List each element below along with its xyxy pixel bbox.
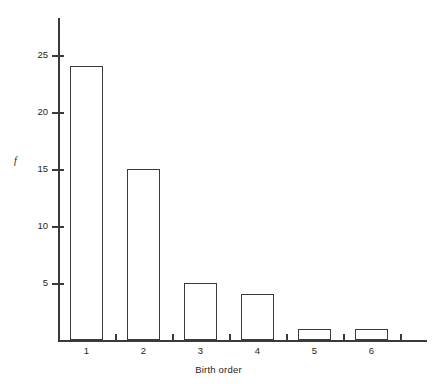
bar <box>298 329 331 340</box>
y-axis-tick-label: 25 <box>22 50 48 60</box>
bar <box>355 329 388 340</box>
bar <box>184 283 217 340</box>
x-axis-tick <box>286 334 288 341</box>
x-axis-tick <box>400 334 402 341</box>
y-axis-tick-label: 5 <box>22 278 48 288</box>
x-axis-tick-label: 3 <box>186 346 216 356</box>
x-axis-tick-label: 4 <box>243 346 273 356</box>
bar-chart-figure: 510152025 123456 f Birth order <box>0 0 437 384</box>
x-axis-tick <box>343 334 345 341</box>
bar <box>127 169 160 340</box>
y-axis-tick <box>52 169 64 171</box>
bar <box>70 66 103 340</box>
x-axis-tick-label: 1 <box>72 346 102 356</box>
y-axis-tick <box>52 283 64 285</box>
y-axis-tick-label: 10 <box>22 221 48 231</box>
y-axis-tick <box>52 226 64 228</box>
x-axis-tick <box>172 334 174 341</box>
x-axis-tick-label: 2 <box>129 346 159 356</box>
y-axis-tick <box>52 112 64 114</box>
y-axis-line <box>58 18 60 341</box>
y-axis-title: f <box>14 155 17 166</box>
bar <box>241 294 274 340</box>
x-axis-tick <box>58 334 60 341</box>
y-axis-tick-label: 15 <box>22 164 48 174</box>
y-axis-tick-label: 20 <box>22 107 48 117</box>
x-axis-tick <box>229 334 231 341</box>
x-axis-tick-label: 5 <box>300 346 330 356</box>
x-axis-tick <box>115 334 117 341</box>
x-axis-tick-label: 6 <box>357 346 387 356</box>
x-axis-line <box>58 340 427 342</box>
y-axis-tick <box>52 55 64 57</box>
x-axis-title: Birth order <box>0 364 437 375</box>
